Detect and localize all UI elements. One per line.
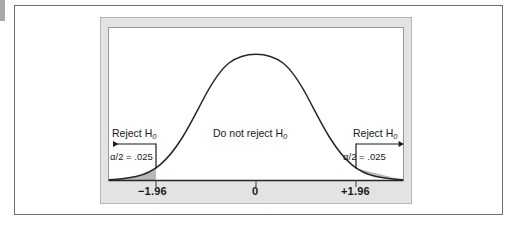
do-not-reject-h0-text: Do not reject H (213, 127, 283, 139)
reject-h0-subscript-right: 0 (393, 132, 397, 141)
left-rejection-region-fill (109, 168, 156, 180)
axis-tick-label-neg196: −1.96 (138, 186, 167, 197)
reject-h0-label-right: Reject H0 (353, 128, 397, 140)
alpha-half-label-left: α/2 = .025 (110, 152, 153, 162)
right-rejection-region-fill (356, 168, 403, 180)
reject-h0-subscript-left: 0 (152, 132, 156, 141)
do-not-reject-h0-subscript: 0 (283, 132, 287, 141)
reject-h0-text-right: Reject H (353, 127, 393, 139)
figure-page: Reject H0 Reject H0 Do not reject H0 α/2… (0, 0, 512, 227)
alpha-half-label-right: α/2 = .025 (343, 152, 386, 162)
reject-h0-text-left: Reject H (112, 127, 152, 139)
axis-tick-label-zero: 0 (252, 186, 258, 197)
axis-tick-label-pos196: +1.96 (341, 186, 370, 197)
reject-h0-label-left: Reject H0 (112, 128, 156, 140)
do-not-reject-h0-label: Do not reject H0 (213, 128, 287, 140)
